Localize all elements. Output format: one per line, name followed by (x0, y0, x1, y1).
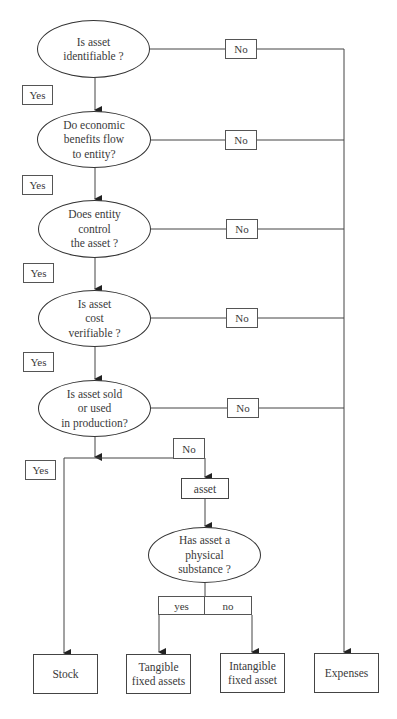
outcome-intangible-fixed-asset: Intangiblefixed asset (220, 653, 285, 693)
outcome-text: fixed asset (228, 673, 277, 687)
outcome-text: Tangible (132, 660, 185, 674)
outcome-stock: Stock (33, 654, 98, 694)
decision-text: Is asset sold (61, 387, 128, 402)
decision-entity-control: Does entitycontrolthe asset ? (38, 200, 151, 258)
no-label-4: No (226, 308, 258, 328)
yes-label-5: Yes (25, 460, 56, 480)
decision-text: to entity? (63, 147, 125, 162)
decision-text: cost (68, 311, 120, 326)
no-label-6: No (173, 438, 205, 459)
yes-label-2: Yes (22, 175, 53, 195)
decision-text: Is asset (68, 297, 120, 312)
decision-text: in production? (61, 416, 128, 431)
decision-text: substance ? (178, 562, 231, 577)
decision-text: identifiable ? (63, 49, 123, 64)
decision-text: Is asset (63, 35, 123, 50)
decision-text: Does entity (68, 207, 121, 222)
no-label-5: No (227, 398, 259, 418)
decision-text: or used (61, 401, 128, 416)
outcome-text: Stock (52, 667, 78, 681)
outcome-tangible-fixed-assets: Tangiblefixed assets (126, 654, 191, 694)
decision-text: verifiable ? (68, 326, 120, 341)
yes-label-3: Yes (23, 263, 54, 283)
asset-box: asset (181, 478, 229, 499)
decision-cost-verifiable: Is assetcostverifiable ? (38, 290, 151, 347)
decision-sold-or-used: Is asset soldor usedin production? (38, 380, 151, 437)
outcome-text: fixed assets (132, 674, 185, 688)
yes-label-1: Yes (22, 85, 53, 105)
no-label-1: No (225, 39, 257, 59)
no-label-2: No (225, 130, 257, 150)
decision-text: benefits flow (63, 132, 125, 147)
outcome-expenses: Expenses (314, 653, 379, 693)
branch-no-label: no (204, 596, 252, 615)
decision-text: the asset ? (68, 236, 121, 251)
decision-economic-benefits: Do economicbenefits flowto entity? (37, 111, 151, 168)
no-label-3: No (226, 219, 258, 239)
decision-identifiable: Is assetidentifiable ? (37, 20, 150, 78)
yes-label-4: Yes (23, 352, 54, 372)
outcome-text: Expenses (325, 666, 368, 680)
decision-text: Has asset a (178, 533, 231, 548)
outcome-text: Intangible (228, 659, 277, 673)
decision-text: physical (178, 548, 231, 563)
decision-physical-substance: Has asset aphysicalsubstance ? (148, 527, 261, 583)
decision-text: control (68, 222, 121, 237)
decision-text: Do economic (63, 118, 125, 133)
branch-yes-label: yes (158, 596, 205, 615)
